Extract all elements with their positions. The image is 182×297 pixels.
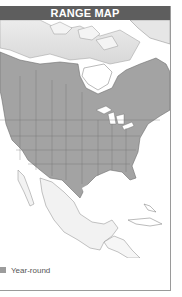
map-legend: Year-round [0, 264, 50, 276]
range-map-panel: RANGE MAP [0, 6, 171, 291]
legend-label-year-round: Year-round [11, 266, 50, 275]
range-map-header: RANGE MAP [0, 6, 170, 20]
north-america-map [0, 20, 170, 258]
year-round-swatch [0, 267, 6, 273]
range-map [0, 20, 170, 258]
